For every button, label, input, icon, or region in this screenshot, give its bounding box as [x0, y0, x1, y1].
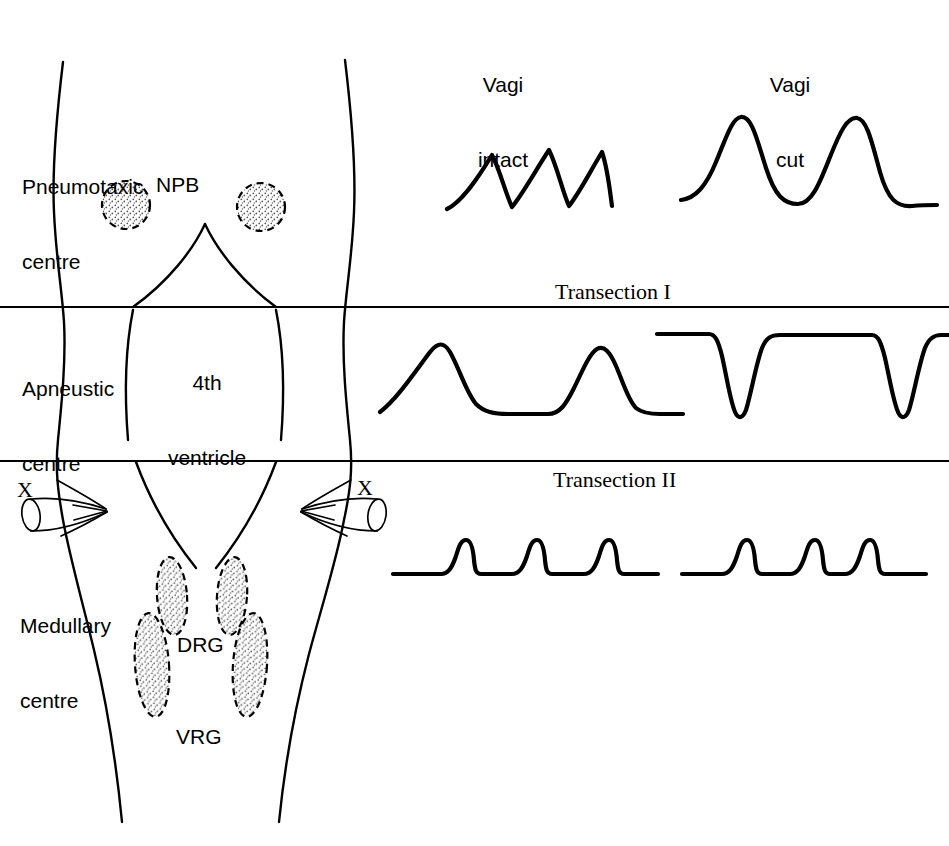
trace-row3-vagi-intact [393, 540, 658, 574]
trace-row2-vagi-intact [380, 345, 683, 415]
column-header-vagi-intact: Vagi intact [458, 22, 548, 222]
structure-label-drg: DRG [177, 632, 224, 657]
region-label-pneumotaxic-centre-line2: centre [22, 249, 143, 274]
trace-row3-vagi-cut [682, 540, 926, 574]
npb-right-nucleus [237, 183, 285, 231]
region-label-pneumotaxic-centre: Pneumotaxic centre [22, 124, 143, 324]
column-header-vagi-cut: Vagi cut [750, 22, 830, 222]
nerve-label-vagus-left: X [17, 477, 33, 502]
transection-2-label: Transection II [553, 467, 676, 492]
structure-label-npb: NPB [156, 172, 199, 197]
region-label-medullary-centre-line2: centre [20, 688, 111, 713]
structure-label-vrg: VRG [176, 724, 222, 749]
region-label-pneumotaxic-centre-line1: Pneumotaxic [22, 174, 143, 199]
vagus-nerve-right [301, 480, 388, 536]
region-label-apneustic-centre-line2: centre [22, 451, 114, 476]
column-header-vagi-cut-line2: cut [750, 147, 830, 172]
respiratory-centres-figure: Vagi intact Vagi cut Transection I Trans… [0, 0, 949, 846]
region-label-apneustic-centre: Apneustic centre [22, 326, 114, 526]
region-label-medullary-centre: Medullary centre [20, 563, 111, 763]
column-header-vagi-intact-line2: intact [458, 147, 548, 172]
column-header-vagi-intact-line1: Vagi [458, 72, 548, 97]
vrg-nuclei [131, 612, 270, 718]
region-label-apneustic-centre-line1: Apneustic [22, 376, 114, 401]
drg-nuclei [154, 556, 249, 636]
structure-label-fourth-ventricle-line1: 4th [152, 370, 262, 395]
structure-label-fourth-ventricle: 4th ventricle [152, 320, 262, 520]
transection-1-label: Transection I [555, 279, 671, 304]
column-header-vagi-cut-line1: Vagi [750, 72, 830, 97]
nerve-label-vagus-right: X [357, 475, 373, 500]
region-label-medullary-centre-line1: Medullary [20, 613, 111, 638]
trace-row2-vagi-cut [657, 334, 949, 417]
structure-label-fourth-ventricle-line2: ventricle [152, 445, 262, 470]
